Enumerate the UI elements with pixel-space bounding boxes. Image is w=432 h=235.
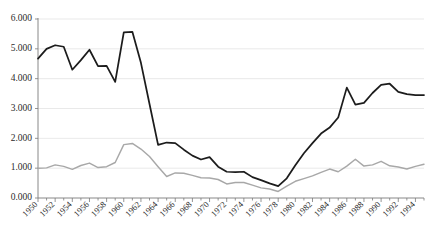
series-line-series-primary: [38, 32, 424, 186]
chart-container: 6.0005.0004.0003.0002.0001.0000.000 1950…: [0, 0, 432, 235]
x-tick-label: 1954: [55, 199, 75, 219]
axis-lines: [38, 18, 424, 198]
x-tick-label: 1962: [123, 199, 142, 218]
y-tick-label: 6.000: [11, 13, 33, 23]
x-tick-label: 1982: [295, 199, 314, 218]
y-tick-label: 2.000: [11, 133, 33, 143]
y-axis-tick-labels: 6.0005.0004.0003.0002.0001.0000.000: [11, 13, 33, 202]
x-axis-tick-marks: [38, 198, 424, 202]
x-tick-label: 1970: [192, 199, 211, 218]
line-chart: 6.0005.0004.0003.0002.0001.0000.000 1950…: [0, 0, 432, 235]
x-tick-label: 1984: [312, 199, 332, 219]
x-tick-label: 1992: [380, 199, 399, 218]
y-tick-label: 3.000: [11, 103, 33, 113]
x-tick-label: 1960: [106, 199, 125, 218]
x-tick-label: 1958: [89, 199, 108, 218]
x-tick-label: 1978: [260, 199, 279, 218]
x-tick-label: 1964: [140, 199, 160, 219]
x-tick-label: 1988: [346, 199, 365, 218]
y-tick-label: 4.000: [11, 73, 33, 83]
x-tick-label: 1972: [209, 199, 228, 218]
x-tick-label: 1966: [157, 199, 177, 219]
x-tick-label: 1990: [363, 199, 382, 218]
x-tick-label: 1980: [278, 199, 297, 218]
y-tick-label: 5.000: [11, 43, 33, 53]
x-tick-label: 1994: [398, 199, 418, 219]
x-tick-label: 1952: [37, 199, 56, 218]
series-line-series-secondary: [38, 143, 424, 191]
y-tick-label: 0.000: [11, 192, 33, 202]
data-series: [38, 32, 424, 192]
x-axis-tick-labels: 1950195219541956195819601962196419661968…: [20, 199, 417, 219]
x-tick-label: 1950: [20, 199, 39, 218]
x-tick-label: 1968: [175, 199, 194, 218]
x-tick-label: 1976: [243, 199, 263, 219]
y-tick-label: 1.000: [11, 162, 33, 172]
x-tick-label: 1974: [226, 199, 246, 219]
x-tick-label: 1956: [72, 199, 92, 219]
x-tick-label: 1986: [329, 199, 349, 219]
